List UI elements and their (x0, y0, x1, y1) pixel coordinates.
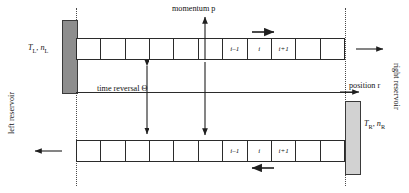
position-axis-label: position r (349, 82, 380, 90)
chain-cell (126, 141, 150, 161)
chain-cell-i: i (248, 141, 272, 161)
chain-cell-i-minus-1: i–1 (223, 141, 247, 161)
chain-cell (321, 39, 344, 59)
chain-cell (174, 39, 198, 59)
chain-cell (77, 39, 101, 59)
chain-cell (150, 141, 174, 161)
chain-cell (199, 39, 223, 59)
chain-cell-i-minus-1: i–1 (223, 39, 247, 59)
right-reservoir-side-label: right reservoir (392, 63, 400, 110)
chain-cell (101, 141, 125, 161)
chain-cell (296, 39, 320, 59)
time-reversal-label: time reversal Θ (97, 85, 147, 93)
left-reservoir-side-label: left reservoir (8, 92, 16, 134)
momentum-axis-label: momentum p (172, 5, 215, 13)
chain-cell (101, 39, 125, 59)
chain-cell (150, 39, 174, 59)
chain-cell (321, 141, 344, 161)
chain-cell-i: i (248, 39, 272, 59)
left-density-subscript: L (45, 47, 49, 54)
chain-cell (174, 141, 198, 161)
right-density-subscript: R (381, 123, 385, 130)
lower-chain: i–1 i i+1 (76, 140, 345, 162)
right-reservoir-block (345, 101, 361, 175)
chain-cell (296, 141, 320, 161)
chain-cell-i-plus-1: i+1 (272, 141, 296, 161)
left-reservoir-state-label: TL, nL (28, 44, 48, 54)
right-reservoir-state-label: TR, nR (364, 120, 385, 130)
chain-cell (77, 141, 101, 161)
chain-cell-i-plus-1: i+1 (272, 39, 296, 59)
figure-canvas: i–1 i i+1 i–1 i i+1 (0, 0, 409, 193)
chain-cell (199, 141, 223, 161)
chain-cell (126, 39, 150, 59)
upper-chain: i–1 i i+1 (76, 38, 345, 60)
